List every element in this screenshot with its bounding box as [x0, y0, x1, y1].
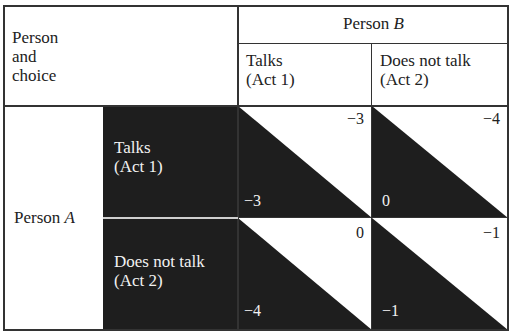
row-label-line: (Act 1): [114, 157, 163, 176]
column-header-act2: Does not talk (Act 2): [380, 51, 471, 89]
person-b-letter: B: [394, 14, 404, 33]
payoff-cell-r2c1: 0 −4: [238, 218, 372, 330]
corner-label-line: Person: [12, 28, 58, 47]
payoff-matrix: −3 −3 −4 0 0 −4 −1 −1 Person and choice …: [0, 0, 512, 334]
corner-label-line: and: [12, 47, 58, 66]
border-right: [507, 5, 509, 331]
payoff-b: −3: [347, 110, 364, 128]
divider-personb-subheader: [238, 43, 509, 44]
divider-row-labels: [103, 217, 238, 219]
payoff-b: −1: [483, 224, 500, 242]
row-label-line: Talks: [114, 138, 163, 157]
payoff-cell-r1c2: −4 0: [372, 106, 508, 218]
person-b-prefix: Person: [343, 14, 394, 33]
row-label-act1: Talks (Act 1): [114, 138, 163, 176]
column-header-line: (Act 2): [380, 70, 471, 89]
row-label-line: Does not talk: [114, 252, 205, 271]
payoff-a: −1: [382, 302, 399, 320]
divider-header-body: [3, 105, 509, 107]
person-a-label: Person A: [14, 208, 75, 227]
row-label-line: (Act 2): [114, 271, 205, 290]
row-label-act2: Does not talk (Act 2): [114, 252, 205, 290]
border-left: [3, 5, 5, 331]
border-bottom: [3, 329, 509, 331]
payoff-a: −3: [244, 192, 261, 210]
column-header-line: (Act 1): [246, 70, 295, 89]
column-header-line: Does not talk: [380, 51, 471, 70]
column-header-act1: Talks (Act 1): [246, 51, 295, 89]
divider-col-b: [371, 43, 372, 331]
column-header-line: Talks: [246, 51, 295, 70]
payoff-b: −4: [483, 110, 500, 128]
payoff-a: 0: [382, 192, 390, 210]
payoff-a: −4: [244, 302, 261, 320]
payoff-cell-r2c2: −1 −1: [372, 218, 508, 330]
divider-row: [238, 217, 509, 218]
person-b-heading: Person B: [238, 14, 509, 33]
border-top: [3, 5, 509, 7]
corner-label-line: choice: [12, 66, 58, 85]
payoff-b: 0: [356, 224, 364, 242]
person-a-letter: A: [65, 208, 75, 227]
divider-col-main: [237, 5, 239, 331]
corner-label: Person and choice: [12, 28, 58, 85]
payoff-cell-r1c1: −3 −3: [238, 106, 372, 218]
person-a-prefix: Person: [14, 208, 65, 227]
